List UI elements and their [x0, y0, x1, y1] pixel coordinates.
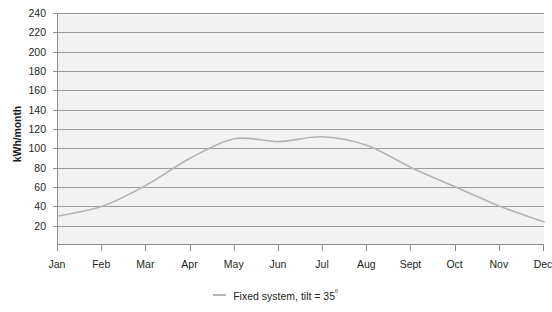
x-axis-tick-mark — [499, 245, 500, 251]
x-axis-tick-mark — [366, 245, 367, 251]
x-axis-tick-labels: JanFebMarAprMayJunJulAugSeptOctNovDec — [0, 245, 551, 275]
series-line-fixed-system — [58, 13, 544, 245]
x-axis-tick-mark — [101, 245, 102, 251]
x-axis-tick-label: Sept — [400, 258, 422, 270]
x-axis-tick-label: Jul — [315, 258, 328, 270]
y-axis-tick-label: 140 — [2, 104, 46, 116]
x-axis-tick-mark — [455, 245, 456, 251]
x-axis-tick-mark — [278, 245, 279, 251]
x-axis-tick-label: Aug — [357, 258, 376, 270]
y-axis-tick-label: 180 — [2, 65, 46, 77]
x-axis-tick-label: Jan — [49, 258, 66, 270]
x-axis-tick-label: Apr — [181, 258, 197, 270]
y-axis-tick-label: 60 — [2, 181, 46, 193]
x-axis-tick-mark — [410, 245, 411, 251]
y-axis-tick-label: 220 — [2, 26, 46, 38]
y-axis-tick-label: 200 — [2, 46, 46, 58]
x-axis-tick-label: Jun — [269, 258, 286, 270]
legend-item-text: Fixed system, tilt = 35 — [233, 290, 335, 302]
x-axis-tick-mark — [57, 245, 58, 251]
x-axis-tick-label: Oct — [446, 258, 462, 270]
x-axis-tick-label: Dec — [534, 258, 552, 270]
y-axis-tick-label: 100 — [2, 142, 46, 154]
x-axis-tick-mark — [322, 245, 323, 251]
y-axis-tick-label: 80 — [2, 162, 46, 174]
x-axis-tick-label: Feb — [92, 258, 110, 270]
legend-degree-symbol: º — [335, 288, 338, 297]
legend-line-marker — [213, 294, 226, 296]
y-axis-tick-label: 40 — [2, 200, 46, 212]
x-axis-tick-mark — [145, 245, 146, 251]
y-axis-tick-label: 120 — [2, 123, 46, 135]
x-axis-tick-label: Nov — [489, 258, 508, 270]
y-axis-tick-label: 160 — [2, 84, 46, 96]
y-axis-tick-label: 240 — [2, 7, 46, 19]
chart-legend: Fixed system, tilt = 35º — [0, 288, 551, 302]
x-axis-tick-label: May — [224, 258, 244, 270]
y-axis-tick-labels: 20406080100120140160180200220240 — [0, 0, 57, 258]
x-axis-tick-label: Mar — [136, 258, 154, 270]
x-axis-tick-mark — [234, 245, 235, 251]
x-axis-tick-mark — [190, 245, 191, 251]
plot-area — [57, 13, 544, 245]
legend-item-label: Fixed system, tilt = 35º — [233, 288, 338, 302]
x-axis-tick-mark — [543, 245, 544, 251]
y-axis-tick-label: 20 — [2, 220, 46, 232]
